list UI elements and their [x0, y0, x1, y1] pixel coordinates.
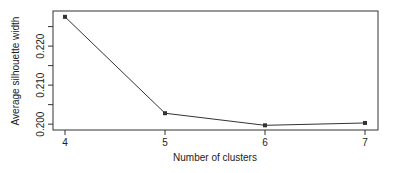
data-point-marker: [363, 121, 367, 125]
x-tick-label: 7: [362, 137, 368, 148]
silhouette-line-chart: 0.2000.2100.220 4567 Number of clusters …: [0, 0, 394, 173]
y-axis: 0.2000.2100.220: [35, 27, 53, 137]
x-axis-title: Number of clusters: [173, 152, 257, 163]
series-markers: [63, 15, 367, 127]
plot-frame: [53, 11, 378, 130]
series-line: [65, 17, 365, 125]
data-point-marker: [63, 15, 67, 19]
x-tick-label: 4: [62, 137, 68, 148]
x-tick-label: 5: [162, 137, 168, 148]
y-tick-label: 0.200: [35, 111, 46, 136]
x-axis: 4567: [62, 130, 368, 148]
data-point-marker: [263, 123, 267, 127]
data-point-marker: [163, 111, 167, 115]
y-tick-label: 0.220: [35, 33, 46, 58]
y-axis-title: Average silhouette width: [10, 17, 21, 126]
x-tick-label: 6: [262, 137, 268, 148]
y-tick-label: 0.210: [35, 72, 46, 97]
